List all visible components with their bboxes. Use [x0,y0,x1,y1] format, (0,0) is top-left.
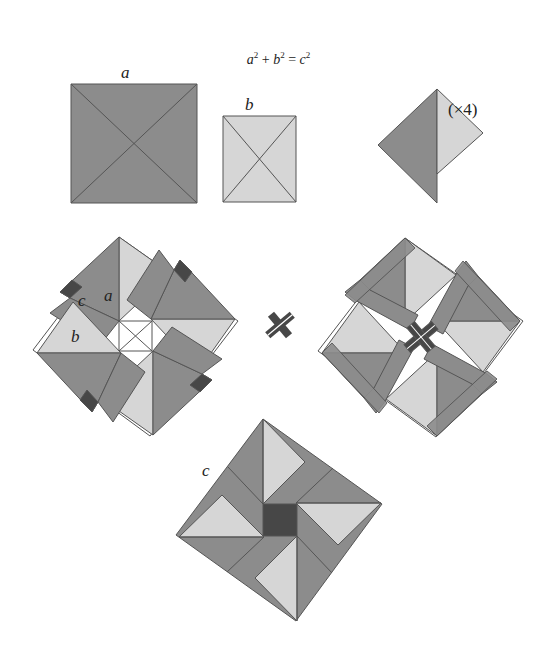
label-a: a [121,64,130,81]
cross-piece [259,304,302,346]
square-b [223,116,296,202]
square-a [71,84,197,203]
label-left-c: c [78,292,86,309]
right-assembly [318,238,523,437]
label-b: b [245,96,254,113]
square-c-assembly [176,419,382,621]
left-assembly [33,237,238,436]
label-left-a: a [104,287,113,304]
label-multiplier: (×4) [448,100,477,120]
diagram-canvas [0,0,557,657]
label-left-b: b [71,328,80,345]
label-bottom-c: c [202,462,210,479]
